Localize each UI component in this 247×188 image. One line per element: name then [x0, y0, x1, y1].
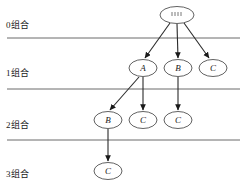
- tree-node-n2b[interactable]: B: [94, 112, 122, 129]
- diagram-canvas: ABCBCCC 0组合1组合2组合3组合: [0, 0, 247, 188]
- node-label-n2c2: C: [175, 115, 182, 125]
- edge-root-a: [145, 23, 170, 58]
- level-label-level-1: 1组合: [6, 66, 29, 79]
- tree-diagram-svg: ABCBCCC: [0, 0, 247, 188]
- tree-node-n1a[interactable]: A: [129, 60, 157, 77]
- level-label-level-0: 0组合: [6, 18, 29, 31]
- tree-node-n3c[interactable]: C: [94, 163, 122, 180]
- edge-root-c: [184, 23, 209, 58]
- node-label-n1b: B: [175, 63, 181, 73]
- node-label-n2c1: C: [140, 115, 147, 125]
- tree-node-n1c[interactable]: C: [199, 60, 227, 77]
- tree-nodes: ABCBCCC: [94, 7, 227, 180]
- level-label-level-2: 2组合: [6, 118, 29, 131]
- level-label-level-3: 3组合: [6, 167, 29, 180]
- tree-node-n2c1[interactable]: C: [129, 112, 157, 129]
- node-label-n1c: C: [210, 63, 217, 73]
- edge-a-b: [110, 77, 139, 110]
- node-label-n3c: C: [105, 166, 112, 176]
- tree-node-n2c2[interactable]: C: [164, 112, 192, 129]
- node-label-n2b: B: [105, 115, 111, 125]
- tree-node-n1b[interactable]: B: [164, 60, 192, 77]
- node-ellipse-root: [160, 7, 194, 24]
- edge-root-b: [177, 24, 178, 58]
- node-label-n1a: A: [139, 63, 146, 73]
- tree-node-root[interactable]: [160, 7, 194, 24]
